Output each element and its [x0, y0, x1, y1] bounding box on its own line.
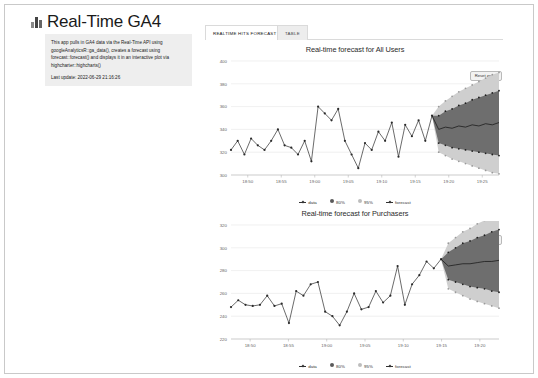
legend-item-80[interactable]: 80%: [330, 363, 345, 369]
tab-realtime-hits-forecast[interactable]: REALTIME HITS FORECAST: [205, 25, 284, 40]
legend-item-95[interactable]: 95%: [358, 363, 373, 369]
tab-table[interactable]: TABLE: [277, 25, 308, 40]
svg-text:18:55: 18:55: [276, 179, 288, 184]
legend-label: data: [308, 364, 317, 369]
plot-area[interactable]: 30032034036038040018:5018:5519:0019:0519…: [205, 57, 505, 191]
svg-text:19:15: 19:15: [436, 343, 448, 348]
svg-text:360: 360: [220, 104, 228, 109]
svg-text:340: 340: [220, 127, 228, 132]
app-description: This app pulls in GA4 data via the Real-…: [51, 39, 186, 69]
svg-text:19:20: 19:20: [443, 179, 455, 184]
svg-text:19:10: 19:10: [376, 179, 388, 184]
svg-text:280: 280: [220, 268, 228, 273]
svg-text:220: 220: [220, 337, 228, 342]
svg-text:19:25: 19:25: [477, 179, 489, 184]
plot-svg: 22024026028030032018:5018:5519:0019:0519…: [205, 221, 505, 355]
legend-label: forecast: [395, 364, 411, 369]
svg-text:260: 260: [220, 291, 228, 296]
legend-label: data: [308, 200, 317, 205]
legend-label: 95%: [364, 364, 373, 369]
svg-text:19:00: 19:00: [309, 179, 321, 184]
legend-label: forecast: [395, 200, 411, 205]
last-update-text: Last update: 2022-06-29 21:16:26: [51, 74, 186, 82]
svg-text:18:50: 18:50: [242, 179, 254, 184]
legend-label: 80%: [336, 200, 345, 205]
svg-text:19:00: 19:00: [321, 343, 333, 348]
svg-text:19:10: 19:10: [398, 343, 410, 348]
svg-text:300: 300: [220, 173, 228, 178]
legend-item-data[interactable]: data: [299, 364, 317, 369]
page-title-text: Real-Time GA4: [47, 12, 161, 31]
legend-item-forecast[interactable]: forecast: [386, 200, 411, 205]
svg-text:18:55: 18:55: [283, 343, 295, 348]
svg-text:320: 320: [220, 150, 228, 155]
app-window: Real-Time GA4 This app pulls in GA4 data…: [4, 4, 534, 374]
chart-purchasers: Real-time forecast for Purchasers Reset …: [205, 207, 505, 371]
legend-item-80[interactable]: 80%: [330, 199, 345, 205]
svg-text:19:15: 19:15: [410, 179, 422, 184]
svg-text:19:05: 19:05: [343, 179, 355, 184]
chart-title: Real-time forecast for Purchasers: [205, 209, 505, 218]
svg-text:19:20: 19:20: [474, 343, 486, 348]
legend-item-95[interactable]: 95%: [358, 199, 373, 205]
svg-text:320: 320: [220, 223, 228, 228]
svg-text:19:05: 19:05: [360, 343, 372, 348]
bar-chart-emoji-icon: [31, 15, 44, 29]
legend-item-data[interactable]: data: [299, 200, 317, 205]
plot-svg: 30032034036038040018:5018:5519:0019:0519…: [205, 57, 505, 191]
legend-label: 95%: [364, 200, 373, 205]
plot-area[interactable]: 22024026028030032018:5018:5519:0019:0519…: [205, 221, 505, 355]
legend-label: 80%: [336, 364, 345, 369]
svg-text:240: 240: [220, 314, 228, 319]
tab-bar: REALTIME HITS FORECAST TABLE: [205, 25, 503, 40]
info-panel: This app pulls in GA4 data via the Real-…: [45, 34, 192, 86]
page-title: Real-Time GA4: [31, 12, 161, 32]
legend-item-forecast[interactable]: forecast: [386, 364, 411, 369]
chart-legend: data 80% 95% forecast: [205, 199, 505, 205]
chart-title: Real-time forecast for All Users: [205, 45, 505, 54]
svg-text:300: 300: [220, 246, 228, 251]
svg-text:400: 400: [220, 59, 228, 64]
chart-all-users: Real-time forecast for All Users Reset z…: [205, 43, 505, 207]
chart-legend: data 80% 95% forecast: [205, 363, 505, 369]
svg-text:380: 380: [220, 82, 228, 87]
svg-text:18:50: 18:50: [245, 343, 257, 348]
